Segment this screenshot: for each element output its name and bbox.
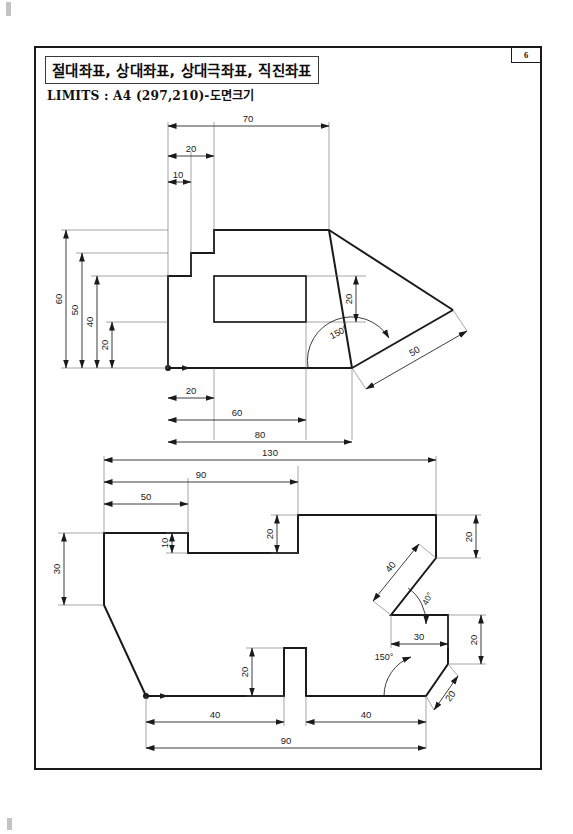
origin-marker-bottom [143,693,168,699]
dim-90-top: 90 [196,469,207,480]
dim-70-top: 70 [243,113,254,124]
angle-arc-150-bottom [384,657,411,696]
inner-rectangle-top [214,276,306,322]
dim-20-tab: 20 [239,667,250,678]
dim-50-left: 50 [69,305,80,316]
dims-horizontal-top-bottom [104,460,436,504]
drawing-page: 6 절대좌표, 상대좌표, 상대극좌표, 직진좌표 LIMITS : A4 (2… [0,0,573,834]
dim-10-step: 10 [159,538,170,549]
angle-40-bottom: 40° [420,591,435,607]
title-block: 절대좌표, 상대좌표, 상대극좌표, 직진좌표 [45,56,319,84]
dim-20-top: 20 [186,143,197,154]
dim-30-left: 30 [51,564,62,575]
dim-60-bottom: 60 [232,407,243,418]
dim-20-right-upper: 20 [463,532,474,543]
outline-top [168,230,352,368]
origin-marker-top [165,365,190,371]
dims-horizontal-top [168,126,329,182]
angle-150-bottom: 150° [375,652,394,662]
dim-60-left: 60 [53,294,64,305]
dim-40-left: 40 [84,317,95,328]
dim-90-bottom: 90 [281,735,292,746]
scan-artifact-top [6,2,11,16]
dim-50-top: 50 [141,491,152,502]
dim-30-middle: 30 [414,631,425,642]
angle-arc-40-bottom [408,588,426,624]
dim-50-diagonal: 50 [407,344,422,359]
scan-artifact-bottom [7,818,12,830]
figure-bottom: 130 90 50 30 10 20 20 [36,448,544,768]
limits-label: LIMITS : A4 (297,210)-도면크기 [47,86,254,104]
figure-top: 70 20 10 60 50 40 20 20 [36,110,544,450]
outline-bottom [104,515,448,696]
dim-40-bottom-left: 40 [210,709,221,720]
dim-20-step: 20 [264,529,275,540]
page-number-box: 6 [511,47,541,63]
diagonal-50-top [352,310,453,368]
dim-40-bottom-right: 40 [361,709,372,720]
page-number-label: 6 [524,50,528,60]
dim-20-inner-rect: 20 [343,294,354,305]
dims-diagonal-20 [426,664,458,710]
drawing-frame: 6 절대좌표, 상대좌표, 상대극좌표, 직진좌표 LIMITS : A4 (2… [34,46,542,770]
dim-20-bottom: 20 [186,385,197,396]
dim-80-bottom: 80 [255,429,266,440]
dim-10-top: 10 [173,169,184,180]
dim-20-right-lower: 20 [468,635,479,646]
dim-40-diagonal: 40 [383,559,398,574]
title-label: 절대좌표, 상대좌표, 상대극좌표, 직진좌표 [52,59,312,80]
dim-130-top: 130 [262,448,278,458]
dim-20-left: 20 [99,340,110,351]
dim-20-diagonal: 20 [443,689,458,704]
